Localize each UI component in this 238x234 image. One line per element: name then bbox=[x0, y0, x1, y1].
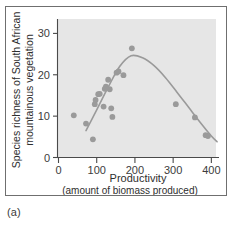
y-axis-title-line1: Species richness of South African bbox=[10, 12, 22, 169]
x-tick-label: 300 bbox=[164, 164, 182, 176]
x-tick-label: 0 bbox=[55, 164, 61, 176]
data-point bbox=[121, 72, 127, 78]
x-axis-title: Productivity bbox=[110, 172, 167, 184]
y-axis-tick-labels: 0102030 bbox=[38, 27, 50, 163]
data-point bbox=[93, 97, 99, 103]
y-tick-label: 0 bbox=[44, 152, 50, 164]
figure-caption: (a) bbox=[7, 206, 21, 218]
data-point bbox=[101, 104, 107, 110]
data-point bbox=[205, 133, 211, 139]
y-tick-label: 10 bbox=[38, 110, 50, 122]
x-axis-subtitle: (amount of biomass produced) bbox=[62, 185, 198, 195]
data-point bbox=[71, 112, 77, 118]
x-tick-label: 100 bbox=[88, 164, 106, 176]
data-point bbox=[108, 105, 114, 111]
chart-panel: 0102030 0100200300400 Productivity (amou… bbox=[5, 6, 227, 196]
plot-area-background bbox=[58, 19, 216, 157]
x-axis-ticks bbox=[59, 158, 212, 164]
data-point bbox=[105, 77, 111, 83]
y-tick-label: 30 bbox=[38, 27, 50, 39]
data-point bbox=[173, 101, 179, 107]
data-point bbox=[107, 86, 113, 92]
scatter-plot-svg: 0102030 0100200300400 Productivity (amou… bbox=[6, 7, 226, 195]
y-tick-label: 20 bbox=[38, 69, 50, 81]
data-point bbox=[192, 114, 198, 120]
data-point bbox=[97, 91, 103, 97]
x-tick-label: 400 bbox=[202, 164, 220, 176]
data-point bbox=[129, 45, 135, 51]
data-point bbox=[109, 114, 115, 120]
data-point bbox=[83, 121, 89, 127]
figure-container: 0102030 0100200300400 Productivity (amou… bbox=[0, 0, 238, 234]
data-point bbox=[116, 69, 122, 75]
data-point bbox=[90, 136, 96, 142]
y-axis-title-line2: mountainous vegetation bbox=[23, 34, 35, 146]
